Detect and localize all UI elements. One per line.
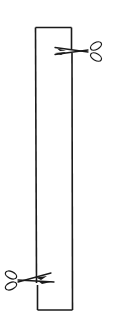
paper-strip: [36, 28, 73, 311]
scissors-icon: [4, 269, 54, 291]
diagram-canvas: [0, 0, 113, 326]
scissors-icon: [55, 40, 103, 63]
